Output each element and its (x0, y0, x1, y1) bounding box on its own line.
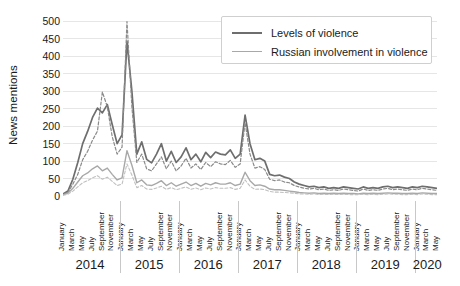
year-separator (120, 201, 121, 273)
x-axis-month-label: January (353, 223, 361, 251)
x-axis-month-label: September (393, 212, 401, 251)
x-axis-year-label: 2016 (194, 257, 223, 272)
x-axis-month-label: September (334, 212, 342, 251)
x-axis-year-label: 2017 (253, 257, 282, 272)
x-axis-month-label: March (363, 229, 371, 251)
x-axis-month-label: January (235, 223, 243, 251)
y-axis-tick-label: 450 (42, 33, 60, 45)
x-axis-month-label: March (245, 229, 253, 251)
x-axis-year-label: 2019 (371, 257, 400, 272)
x-axis-month-label: May (78, 236, 86, 251)
x-axis-month-label: July (324, 237, 332, 251)
legend-line-icon (232, 51, 262, 52)
x-axis-month-label: July (147, 237, 155, 251)
y-axis-tick-label: 500 (42, 15, 60, 27)
legend-label: Levels of violence (271, 27, 358, 39)
legend-label: Russian involvement in violence (271, 46, 428, 58)
x-axis-year-label: 2014 (76, 257, 105, 272)
x-axis-month-label: September (216, 212, 224, 251)
x-axis-month-label: September (98, 212, 106, 251)
y-axis-tick-label: 400 (42, 50, 60, 62)
x-axis-year-label: 2020 (413, 257, 442, 272)
x-axis-month-label: January (294, 223, 302, 251)
x-axis-month-label: July (265, 237, 273, 251)
x-axis-month-label: March (127, 229, 135, 251)
y-axis-tick-labels: 050100150200250300350400450500 (26, 0, 60, 210)
x-axis-month-label: January (176, 223, 184, 251)
x-axis-month-label: May (432, 236, 440, 251)
x-axis-month-label: May (373, 236, 381, 251)
x-axis-month-label: September (157, 212, 165, 251)
x-axis-year-label: 2015 (135, 257, 164, 272)
y-axis-tick-label: 350 (42, 68, 60, 80)
x-axis-month-label: November (226, 214, 234, 251)
x-axis-year-label: 2018 (312, 257, 341, 272)
y-axis-tick-label: 0 (54, 190, 60, 202)
legend-item: Levels of violence (232, 23, 423, 42)
x-axis-month-label: March (68, 229, 76, 251)
x-axis-month-label: November (344, 214, 352, 251)
legend-item: Russian involvement in violence (232, 42, 423, 61)
y-axis-tick-label: 300 (42, 85, 60, 97)
y-axis-tick-label: 200 (42, 120, 60, 132)
year-separator (297, 201, 298, 273)
x-axis-month-label: July (383, 237, 391, 251)
x-axis-month-label: May (196, 236, 204, 251)
x-axis-month-label: May (314, 236, 322, 251)
y-axis-tick-label: 100 (42, 155, 60, 167)
x-axis-month-label: November (166, 214, 174, 251)
x-axis-month-label: May (137, 236, 145, 251)
legend-line-icon (232, 32, 262, 34)
legend: Levels of violence Russian involvement i… (221, 16, 432, 64)
y-axis-tick-label: 50 (48, 173, 60, 185)
x-axis-month-label: March (422, 229, 430, 251)
x-axis-month-label: September (275, 212, 283, 251)
x-axis-month-label: May (255, 236, 263, 251)
y-axis-tick-label: 250 (42, 103, 60, 115)
y-axis-title: News mentions (7, 65, 19, 145)
x-axis-month-label: July (88, 237, 96, 251)
x-axis-year-labels: 2014201520162017201820192020 (63, 253, 437, 279)
x-axis-month-label: November (107, 214, 115, 251)
data-series-line (63, 41, 437, 194)
x-axis-month-label: July (206, 237, 214, 251)
x-axis-month-label: March (304, 229, 312, 251)
year-separator (356, 201, 357, 273)
x-axis-month-label: November (403, 214, 411, 251)
x-axis-month-label: March (186, 229, 194, 251)
x-axis-month-label: January (117, 223, 125, 251)
x-axis-month-label: January (413, 223, 421, 251)
y-axis-tick-label: 150 (42, 138, 60, 150)
x-axis-month-label: November (285, 214, 293, 251)
y-axis-title-wrap: News mentions (2, 0, 24, 210)
year-separator (179, 201, 180, 273)
chart-figure: News mentions 05010015020025030035040045… (0, 0, 460, 286)
x-axis-month-label: January (58, 223, 66, 251)
year-separator (238, 201, 239, 273)
